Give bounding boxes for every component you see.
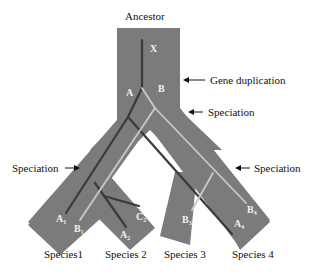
speciation-annotation-top: Speciation <box>188 106 255 118</box>
arrow-left-icon <box>188 109 194 115</box>
gene-label-a: A <box>126 87 134 98</box>
speciation-annotation-right: Speciation <box>235 162 301 174</box>
arrow-left-icon <box>183 77 189 83</box>
gene-label-x: X <box>150 43 158 54</box>
species-label-4: Species 4 <box>232 248 274 260</box>
svg-text:Speciation: Speciation <box>12 162 59 174</box>
svg-text:Speciation: Speciation <box>254 162 301 174</box>
species-label-1: Species1 <box>44 248 83 260</box>
svg-text:Gene duplication: Gene duplication <box>210 74 286 86</box>
speciation-annotation-left: Speciation <box>12 162 80 174</box>
arrow-left-icon <box>235 165 241 171</box>
svg-text:Speciation: Speciation <box>208 106 255 118</box>
species3-branch <box>160 172 197 245</box>
species-label-3: Species 3 <box>164 248 206 260</box>
gene-tree-diagram: X A B A1 B1 A2 C2 B3 B4 A4 Ancestor Gene… <box>0 0 309 274</box>
tip-label-c2: C2 <box>136 211 146 223</box>
gene-label-b: B <box>158 83 165 94</box>
svg-text:C2: C2 <box>136 211 146 223</box>
ancestor-title: Ancestor <box>125 10 165 22</box>
species-label-2: Species 2 <box>105 248 147 260</box>
gene-duplication-annotation: Gene duplication <box>183 74 286 86</box>
